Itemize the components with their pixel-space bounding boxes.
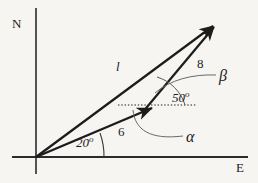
- angle-label-alpha: α: [186, 129, 194, 145]
- degree-symbol-20: o: [89, 134, 94, 144]
- vector-label-resultant: l: [116, 60, 120, 73]
- angle-arc-20: [100, 133, 104, 157]
- angle-label-20-value: 20: [76, 135, 89, 150]
- diagram-canvas: [0, 0, 258, 183]
- angle-label-beta: β: [219, 68, 227, 84]
- vector-label-first-leg: 6: [118, 125, 125, 138]
- angle-label-50-value: 50: [172, 90, 185, 105]
- angle-label-20: 20o: [76, 135, 94, 149]
- vector-diagram-figure: N E l 8 6 50o 20o α β: [0, 0, 258, 183]
- vector-label-second-leg: 8: [197, 57, 204, 70]
- axis-label-north: N: [12, 17, 21, 30]
- axis-label-east: E: [236, 161, 244, 174]
- degree-symbol-50: o: [185, 89, 190, 99]
- angle-label-50: 50o: [172, 90, 190, 104]
